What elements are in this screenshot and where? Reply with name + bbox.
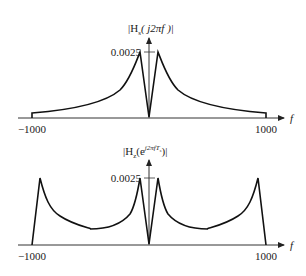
bottom-x-axis-label: f	[290, 239, 295, 251]
top-title: |Hs( j2πf )|	[128, 22, 174, 37]
top-plot: 0.0025 −1000 1000 f |Hs( j2πf )|	[18, 22, 295, 135]
bottom-x-min-label: −1000	[18, 250, 47, 262]
top-x-max-label: 1000	[255, 123, 278, 135]
bottom-title: |Hz(ej2πfTs)|	[123, 144, 167, 160]
top-x-min-label: −1000	[18, 123, 47, 135]
top-y-tick-label: 0.0025	[111, 46, 142, 58]
figure: 0.0025 −1000 1000 f |Hs( j2πf )| 0.0025 …	[0, 0, 306, 276]
bottom-y-tick-label: 0.0025	[111, 172, 142, 184]
bottom-x-max-label: 1000	[255, 250, 278, 262]
top-x-axis-label: f	[290, 112, 295, 124]
bottom-plot: 0.0025 −1000 1000 f |Hz(ej2πfTs)|	[18, 144, 295, 262]
